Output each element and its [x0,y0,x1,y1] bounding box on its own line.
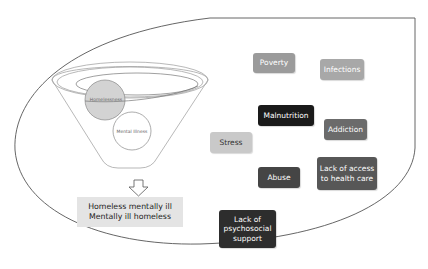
factor-addiction: Addiction [324,119,367,140]
result-line-2: Mentally ill homeless [89,212,171,222]
mental-illness-label: Mental Illness [114,129,150,134]
factor-stress: Stress [210,132,252,153]
homelessness-label: Homelessness [86,97,126,102]
factor-abuse: Abuse [258,167,300,188]
factor-lack-of-psychosocial-support: Lack of psychosocial support [219,210,276,248]
factor-lack-of-access: Lack of access to health care [317,157,377,190]
result-line-1: Homeless mentally ill [88,202,172,212]
down-arrow-icon [129,180,148,196]
factor-poverty: Poverty [253,53,295,73]
factor-infections: Infections [320,59,364,80]
factor-malnutrition: Malnutrition [258,105,314,126]
result-box: Homeless mentally ill Mentally ill homel… [77,197,183,227]
